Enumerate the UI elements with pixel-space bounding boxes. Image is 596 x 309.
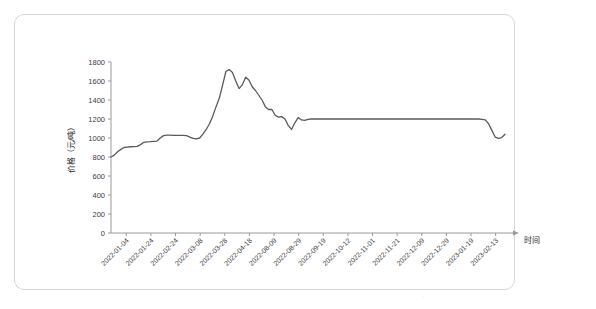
line-chart-svg: 价格（元/吨） 02004006008001000120014001600180…: [0, 0, 596, 309]
y-tick-label: 200: [92, 210, 105, 219]
y-axis-ticks: 020040060080010001200140016001800: [88, 58, 111, 238]
x-axis-arrow: [513, 231, 519, 236]
chart-figure: 价格（元/吨） 02004006008001000120014001600180…: [0, 0, 596, 309]
y-tick-label: 1400: [88, 96, 105, 105]
chart-page: 价格（元/吨） 02004006008001000120014001600180…: [0, 0, 596, 309]
y-tick-label: 600: [92, 172, 105, 181]
y-tick-label: 400: [92, 191, 105, 200]
y-tick-label: 800: [92, 153, 105, 162]
price-series-line: [111, 70, 505, 157]
y-axis-title: 价格（元/吨）: [66, 123, 76, 173]
y-tick-label: 1200: [88, 115, 105, 124]
y-tick-label: 1600: [88, 77, 105, 86]
x-axis-title: 时间: [524, 235, 540, 245]
y-tick-label: 0: [101, 229, 105, 238]
y-tick-label: 1800: [88, 58, 105, 67]
y-tick-label: 1000: [88, 134, 105, 143]
x-axis-ticks: 2022-01-042022-01-242022-02-242022-03-08…: [100, 233, 500, 267]
